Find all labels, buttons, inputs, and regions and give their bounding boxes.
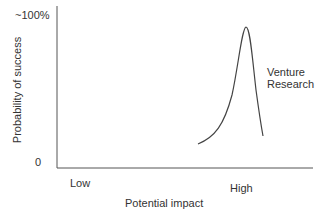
x-tick-high: High (230, 182, 253, 194)
y-tick-top: ~100% (15, 9, 50, 21)
chart-canvas (0, 0, 322, 217)
x-tick-low: Low (70, 177, 90, 189)
series-label-venture: Venture (267, 66, 305, 78)
y-axis-label: Probability of success (11, 30, 23, 150)
y-tick-zero: 0 (35, 156, 41, 168)
venture-research-curve (198, 27, 263, 144)
series-label-research: Research (267, 78, 314, 90)
x-axis-label: Potential impact (125, 197, 203, 209)
